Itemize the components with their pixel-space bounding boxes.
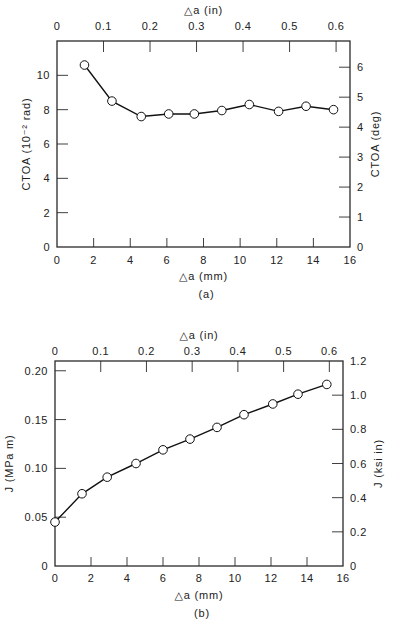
data-point-marker [186, 435, 195, 444]
data-point-marker [302, 102, 311, 111]
data-point-marker [218, 106, 227, 115]
x-tick-label: 4 [124, 572, 131, 584]
data-point-marker [240, 410, 249, 419]
x2-tick-label: 0.4 [229, 345, 246, 357]
data-point-marker [329, 105, 338, 114]
x2-tick-label: 0 [52, 345, 59, 357]
y2-tick-label: 1.2 [350, 355, 367, 367]
plot-frame [57, 41, 350, 247]
y2-tick-label: 3 [357, 151, 364, 163]
x-tick-label: 4 [127, 254, 134, 266]
data-point-marker [245, 100, 254, 109]
panel-label: (b) [194, 607, 210, 619]
data-point-marker [213, 423, 222, 432]
x-tick-label: 10 [228, 572, 241, 584]
data-point-marker [294, 390, 303, 399]
data-point-marker [132, 459, 141, 468]
data-point-marker [108, 97, 117, 106]
series-line [85, 65, 334, 117]
y2-tick-label: 0.8 [350, 423, 367, 435]
y-tick-label: 2 [43, 207, 50, 219]
x2-tick-label: 0.5 [275, 345, 292, 357]
y2-tick-label: 0 [350, 560, 357, 572]
y-tick-label: 4 [43, 172, 50, 184]
data-point-marker [78, 489, 87, 498]
x2-axis-title: △a (in) [184, 4, 223, 16]
y-axis-title: J (MPa m) [3, 435, 15, 493]
x2-tick-label: 0.1 [95, 20, 112, 32]
x-tick-label: 8 [200, 254, 207, 266]
data-point-marker [323, 380, 332, 389]
x-tick-label: 14 [307, 254, 320, 266]
x-tick-label: 16 [343, 254, 356, 266]
x2-tick-label: 0.2 [138, 345, 155, 357]
x-tick-label: 16 [336, 572, 349, 584]
y2-tick-label: 5 [357, 91, 364, 103]
y-tick-label: 10 [37, 69, 50, 81]
x-tick-label: 0 [52, 572, 59, 584]
y2-axis-title: J (ksi in) [372, 439, 384, 488]
series-line [55, 384, 327, 522]
data-point-marker [80, 61, 89, 70]
x2-tick-label: 0 [54, 20, 61, 32]
y-tick-label: 0.20 [25, 365, 48, 377]
chart-panel-b: 024681012141600.10.20.30.40.50.600.050.1… [3, 329, 384, 619]
data-point-marker [159, 446, 168, 455]
data-point-marker [269, 400, 278, 409]
y2-tick-label: 0 [357, 241, 364, 253]
x-tick-label: 14 [300, 572, 313, 584]
figure: 024681012141600.10.20.30.40.50.602468100… [0, 0, 393, 624]
y2-tick-label: 1 [357, 211, 364, 223]
x-tick-label: 2 [88, 572, 95, 584]
x-tick-label: 8 [196, 572, 203, 584]
y-axis-title: CTOA (10⁻² rad) [20, 98, 32, 191]
x2-tick-label: 0.1 [92, 345, 109, 357]
data-point-marker [274, 107, 283, 116]
chart-panel-a: 024681012141600.10.20.30.40.50.602468100… [20, 4, 381, 300]
y2-tick-label: 6 [357, 61, 364, 73]
y-tick-label: 6 [43, 138, 50, 150]
chart-canvas: 024681012141600.10.20.30.40.50.602468100… [0, 0, 393, 624]
data-point-marker [164, 110, 173, 119]
x-tick-label: 2 [90, 254, 97, 266]
y2-tick-label: 0.6 [350, 458, 367, 470]
x-tick-label: 12 [270, 254, 283, 266]
x-axis-title: △a (mm) [175, 589, 224, 601]
data-point-marker [137, 112, 146, 121]
y-tick-label: 0.15 [25, 414, 48, 426]
x2-tick-label: 0.6 [321, 345, 338, 357]
x-tick-label: 6 [160, 572, 167, 584]
y-tick-label: 0.10 [25, 462, 48, 474]
y-tick-label: 0.05 [25, 511, 48, 523]
y2-tick-label: 1.0 [350, 389, 367, 401]
x2-tick-label: 0.3 [188, 20, 205, 32]
x-tick-label: 12 [264, 572, 277, 584]
x-tick-label: 10 [234, 254, 247, 266]
x2-tick-label: 0.6 [328, 20, 345, 32]
x-axis-title: △a (mm) [179, 270, 228, 282]
y2-tick-label: 0.4 [350, 492, 367, 504]
x-tick-label: 0 [54, 254, 61, 266]
data-point-marker [51, 518, 60, 527]
x2-tick-label: 0.5 [281, 20, 298, 32]
y2-axis-title: CTOA (deg) [369, 111, 381, 178]
x-tick-label: 6 [164, 254, 171, 266]
y-tick-label: 8 [43, 104, 50, 116]
x2-tick-label: 0.3 [184, 345, 201, 357]
x2-tick-label: 0.2 [142, 20, 159, 32]
y2-tick-label: 0.2 [350, 526, 367, 538]
y2-tick-label: 4 [357, 121, 364, 133]
y-tick-label: 0 [43, 241, 50, 253]
data-point-marker [103, 473, 112, 482]
x2-axis-title: △a (in) [179, 329, 218, 341]
y2-tick-label: 2 [357, 181, 364, 193]
y-tick-label: 0 [41, 560, 48, 572]
x2-tick-label: 0.4 [235, 20, 252, 32]
data-point-marker [190, 110, 199, 119]
panel-label: (a) [199, 288, 215, 300]
